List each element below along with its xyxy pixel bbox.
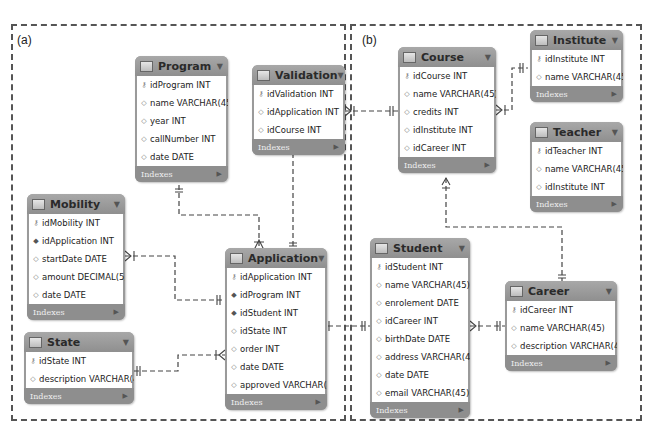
indexes-section[interactable]: Indexes▶: [398, 157, 496, 173]
expand-arrow-icon: ▶: [612, 200, 617, 208]
collapse-arrow-icon[interactable]: ▼: [459, 244, 465, 253]
column-row: ◇callNumber INT: [137, 130, 226, 148]
table-institute[interactable]: Institute▼ ⚷idInstitute INT ◇name VARCHA…: [530, 30, 623, 102]
column-row: ◇birthDate DATE: [372, 330, 468, 348]
table-program[interactable]: Program▼ ⚷idProgram INT ◇name VARCHAR(45…: [135, 56, 228, 182]
column-row: ◇date DATE: [372, 366, 468, 384]
table-title: Teacher: [553, 126, 612, 139]
table-icon: [403, 52, 416, 63]
column-diamond-icon: ◇: [32, 291, 40, 299]
key-icon: ⚷: [403, 72, 411, 80]
key-icon: ⚷: [535, 55, 543, 63]
table-teacher[interactable]: Teacher▼ ⚷idTeacher INT ◇name VARCHAR(45…: [530, 122, 623, 212]
column-row: ◆idStudent INT: [227, 304, 325, 322]
indexes-section[interactable]: Indexes▶: [252, 139, 345, 155]
table-icon: [510, 286, 523, 297]
column-diamond-icon: ◇: [375, 371, 383, 379]
collapse-arrow-icon[interactable]: ▼: [338, 71, 344, 80]
table-title: Validation: [275, 69, 338, 82]
key-icon: ⚷: [32, 219, 40, 227]
table-career[interactable]: Career▼ ⚷idCareer INT ◇name VARCHAR(45) …: [505, 281, 617, 371]
column-row: ⚷idInstitute INT: [532, 50, 621, 68]
column-diamond-icon: ◇: [140, 99, 148, 107]
column-row: ⚷idCareer INT: [507, 301, 615, 319]
column-diamond-icon: ◇: [403, 144, 411, 152]
expand-arrow-icon: ▶: [485, 161, 490, 169]
column-diamond-icon: ◇: [32, 255, 40, 263]
collapse-arrow-icon[interactable]: ▼: [217, 62, 223, 71]
key-icon: ⚷: [140, 81, 148, 89]
column-diamond-icon: ◇: [510, 342, 518, 350]
collapse-arrow-icon[interactable]: ▼: [606, 287, 612, 296]
collapse-arrow-icon[interactable]: ▼: [114, 200, 120, 209]
column-diamond-icon: ◇: [230, 345, 238, 353]
column-row: ◇name VARCHAR(45): [137, 94, 226, 112]
key-icon: ⚷: [510, 306, 518, 314]
column-diamond-icon: ◇: [535, 73, 543, 81]
collapse-arrow-icon[interactable]: ▼: [612, 128, 618, 137]
indexes-section[interactable]: Indexes▶: [530, 196, 623, 212]
column-diamond-icon: ◇: [375, 389, 383, 397]
expand-arrow-icon: ▶: [217, 170, 222, 178]
column-row: ◇idInstitute INT: [400, 121, 494, 139]
column-row: ◇order INT: [227, 340, 325, 358]
column-diamond-icon: ◇: [230, 381, 238, 389]
column-row: ◆idApplication INT: [29, 232, 123, 250]
expand-arrow-icon: ▶: [612, 90, 617, 98]
column-diamond-icon: ◇: [403, 126, 411, 134]
indexes-section[interactable]: Indexes▶: [27, 304, 125, 320]
table-validation[interactable]: Validation▼ ⚷idValidation INT ◇idApplica…: [252, 65, 345, 155]
table-student[interactable]: Student▼ ⚷idStudent INT ◇name VARCHAR(45…: [370, 238, 470, 418]
table-icon: [32, 199, 45, 210]
foreign-key-diamond-icon: ◆: [230, 291, 238, 299]
column-row: ◇idApplication INT: [254, 103, 343, 121]
column-row: ◇idCareer INT: [400, 139, 494, 157]
column-diamond-icon: ◇: [535, 165, 543, 173]
column-diamond-icon: ◇: [29, 375, 37, 383]
expand-arrow-icon: ▶: [123, 392, 128, 400]
indexes-section[interactable]: Indexes▶: [370, 402, 470, 418]
indexes-section[interactable]: Indexes▶: [135, 166, 228, 182]
collapse-arrow-icon[interactable]: ▼: [485, 53, 491, 62]
column-row: ◇year INT: [137, 112, 226, 130]
indexes-section[interactable]: Indexes▶: [530, 86, 623, 102]
column-diamond-icon: ◇: [140, 135, 148, 143]
column-diamond-icon: ◇: [535, 183, 543, 191]
column-row: ⚷idTeacher INT: [532, 142, 621, 160]
indexes-section[interactable]: Indexes▶: [24, 388, 134, 404]
key-icon: ⚷: [257, 90, 265, 98]
column-row: ◇name VARCHAR(45): [532, 68, 621, 86]
column-diamond-icon: ◇: [257, 126, 265, 134]
indexes-section[interactable]: Indexes▶: [505, 355, 617, 371]
table-title: Program: [158, 60, 217, 73]
expand-arrow-icon: ▶: [316, 398, 321, 406]
column-row: ◇name VARCHAR(45): [532, 160, 621, 178]
expand-arrow-icon: ▶: [114, 308, 119, 316]
column-row: ◇idState INT: [227, 322, 325, 340]
collapse-arrow-icon[interactable]: ▼: [123, 338, 129, 347]
column-row: ◇idInstitute INT: [532, 178, 621, 196]
column-row: ⚷idProgram INT: [137, 76, 226, 94]
table-course[interactable]: Course▼ ⚷idCourse INT ◇name VARCHAR(45) …: [398, 47, 496, 173]
column-row: ⚷idMobility INT: [29, 214, 123, 232]
column-diamond-icon: ◇: [375, 281, 383, 289]
table-title: Mobility: [50, 198, 114, 211]
table-icon: [375, 243, 388, 254]
indexes-section[interactable]: Indexes▶: [225, 394, 327, 410]
column-diamond-icon: ◇: [375, 353, 383, 361]
table-title: State: [47, 336, 123, 349]
table-state[interactable]: State▼ ⚷idState INT ◇description VARCHAR…: [24, 332, 134, 404]
column-row: ◇idCourse INT: [254, 121, 343, 139]
table-title: Institute: [553, 34, 612, 47]
column-diamond-icon: ◇: [140, 153, 148, 161]
column-diamond-icon: ◇: [403, 108, 411, 116]
table-title: Career: [528, 285, 606, 298]
table-mobility[interactable]: Mobility▼ ⚷idMobility INT ◆idApplication…: [27, 194, 125, 320]
column-row: ⚷idApplication INT: [227, 268, 325, 286]
table-icon: [257, 70, 270, 81]
column-diamond-icon: ◇: [375, 299, 383, 307]
table-application[interactable]: Application▼ ⚷idApplication INT ◆idProgr…: [225, 248, 327, 410]
collapse-arrow-icon[interactable]: ▼: [318, 254, 324, 263]
column-row: ◇address VARCHAR(45): [372, 348, 468, 366]
collapse-arrow-icon[interactable]: ▼: [612, 36, 618, 45]
